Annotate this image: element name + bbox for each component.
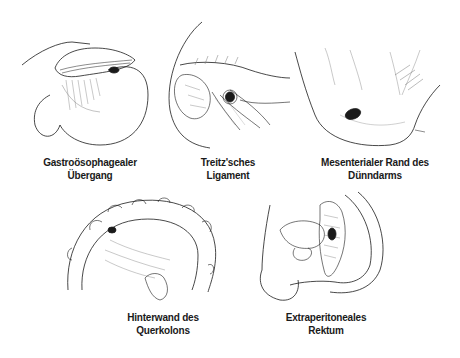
caption-line: Querkolons xyxy=(110,324,216,337)
stomach-illustration xyxy=(0,0,160,150)
caption-line: Rektum xyxy=(276,324,376,337)
rectum-illustration xyxy=(240,170,440,310)
caption-line: Extraperitoneales xyxy=(276,311,376,324)
treitz-ligament-illustration xyxy=(140,0,300,150)
small-intestine-illustration xyxy=(290,0,460,150)
panel-treitz: Treitz'sches Ligament xyxy=(140,0,300,180)
caption-rectum: Extraperitoneales Rektum xyxy=(276,311,376,337)
caption-line: Gastroösophagealer xyxy=(40,156,140,169)
caption-transverse-colon: Hinterwand des Querkolons xyxy=(110,311,216,337)
caption-line: Treitz'sches xyxy=(178,156,278,169)
panel-transverse-colon: Hinterwand des Querkolons xyxy=(60,170,260,358)
caption-line: Hinterwand des xyxy=(110,311,216,324)
panel-gastroesophageal: Gastroösophagealer Übergang xyxy=(0,0,160,180)
panel-mesenteric: Mesenterialer Rand des Dünndarms xyxy=(290,0,460,180)
transverse-colon-illustration xyxy=(60,170,260,310)
panel-rectum: Extraperitoneales Rektum xyxy=(240,170,440,358)
caption-line: Mesenterialer Rand des xyxy=(316,156,434,169)
